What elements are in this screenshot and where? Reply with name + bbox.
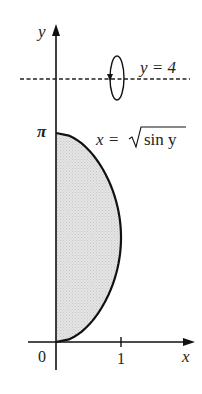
equation-radicand: sin y: [144, 130, 177, 149]
y-tick-label-pi: π: [37, 122, 47, 141]
y-axis-label: y: [36, 22, 46, 41]
curve-equation-label: x = sin y: [95, 127, 186, 149]
x-tick-label: 1: [117, 350, 125, 367]
rotation-arrow-icon: [107, 56, 124, 100]
equation-lhs: x =: [95, 130, 119, 149]
axis-of-rotation-label: y = 4: [138, 58, 177, 77]
y-axis-arrow-icon: [52, 24, 60, 36]
origin-label: 0: [38, 348, 46, 365]
rotation-diagram: y x 0 1 π y = 4 x = sin y: [0, 0, 202, 394]
shaded-region: [56, 133, 121, 342]
x-axis-arrow-icon: [183, 338, 195, 346]
x-axis-label: x: [181, 347, 190, 366]
